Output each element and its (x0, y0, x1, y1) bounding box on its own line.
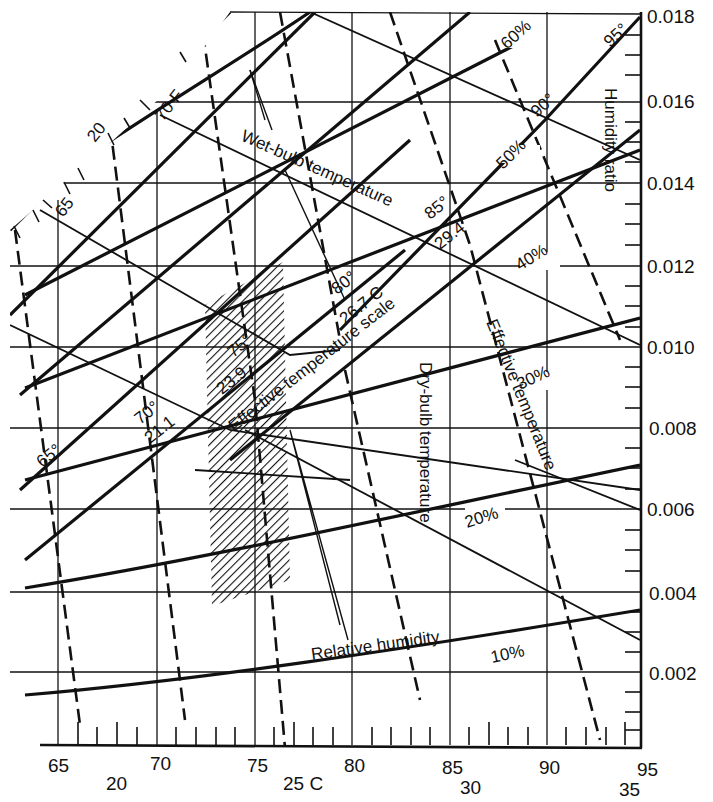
x-axis-labels: 65 70 75 80 85 90 95 20 25 C 30 35 (48, 753, 658, 800)
wet-bulb-annotation: Wet-bulb temperature (238, 126, 396, 210)
x-tick-75: 75 (247, 755, 268, 776)
x-tick-85: 85 (442, 757, 463, 778)
x-tick-65: 65 (48, 755, 69, 776)
x-tick-95: 95 (637, 759, 658, 780)
c-tick-20: 20 (106, 773, 127, 794)
humidity-ratio-annotation: Humidity ratio (601, 88, 620, 192)
sat-label-65: 65 (51, 194, 78, 221)
c-tick-25: 25 C (283, 773, 323, 794)
y-tick-0.012: 0.012 (647, 256, 695, 277)
et-label-65: 65° (33, 440, 65, 471)
et-label-95: 95° (600, 20, 632, 51)
y-tick-0.016: 0.016 (647, 91, 695, 112)
saturation-scale-ticks (14, 52, 186, 238)
y-tick-0.008: 0.008 (649, 418, 697, 439)
relative-humidity-annotation: Relative humidity (310, 627, 441, 664)
y-tick-0.004: 0.004 (649, 583, 697, 604)
y-tick-0.010: 0.010 (647, 337, 695, 358)
c-tick-30: 30 (460, 777, 481, 798)
y-tick-0.006: 0.006 (647, 499, 695, 520)
x-tick-70: 70 (150, 753, 171, 774)
rh-label-20: 20% (462, 503, 500, 532)
y-tick-0.014: 0.014 (647, 173, 695, 194)
x-tick-80: 80 (344, 755, 365, 776)
sat-label-20: 20 (83, 119, 110, 146)
y-tick-0.002: 0.002 (649, 663, 697, 684)
y-axis-labels: 0.018 0.016 0.014 0.012 0.010 0.008 0.00… (647, 6, 697, 684)
et-label-90: 90° (527, 90, 559, 121)
y-tick-0.018: 0.018 (647, 6, 695, 27)
dry-bulb-annotation: Dry-bulb temperature (416, 362, 435, 523)
x-tick-90: 90 (539, 757, 560, 778)
psychrometric-chart: 0.018 0.016 0.014 0.012 0.010 0.008 0.00… (0, 0, 713, 802)
effective-temperature-annotation: Effective temperature (482, 316, 560, 473)
c-tick-35: 35 (619, 779, 640, 800)
